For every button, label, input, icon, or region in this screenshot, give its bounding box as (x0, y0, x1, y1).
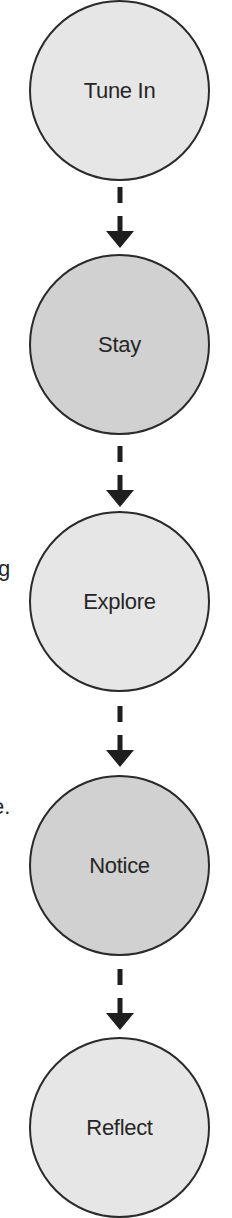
arrow-down-icon (104, 187, 136, 249)
node-label: Reflect (86, 1115, 152, 1141)
arrow-down-icon (104, 446, 136, 508)
node-label: Explore (83, 589, 156, 615)
arrow-connector (104, 969, 136, 1031)
clipped-text-fragment: e. (0, 794, 10, 820)
arrow-connector (104, 446, 136, 508)
clipped-text-fragment: g (0, 556, 10, 582)
arrow-connector (104, 187, 136, 249)
node-label: Notice (89, 853, 150, 879)
node-notice: Notice (29, 775, 210, 956)
node-label: Tune In (84, 78, 156, 104)
node-explore: Explore (29, 511, 210, 692)
arrow-down-icon (104, 706, 136, 768)
node-tune-in: Tune In (29, 0, 210, 181)
arrow-down-icon (104, 969, 136, 1031)
node-stay: Stay (29, 254, 210, 435)
node-label: Stay (98, 332, 141, 358)
arrow-connector (104, 706, 136, 768)
node-reflect: Reflect (29, 1037, 210, 1218)
